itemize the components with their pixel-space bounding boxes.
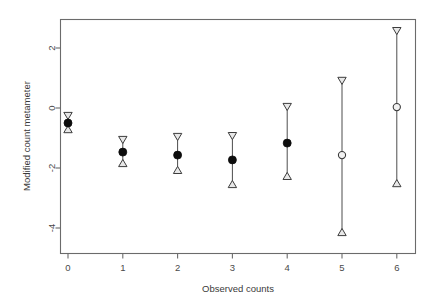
x-tick-label: 0 [65, 262, 70, 273]
data-point-group [228, 133, 236, 188]
lower-limit-up-triangle-icon [283, 172, 291, 179]
data-point-group [119, 136, 127, 166]
lower-limit-up-triangle-icon [119, 159, 127, 166]
data-point-group [283, 103, 291, 179]
estimate-filled-circle-marker [174, 151, 182, 159]
data-point-group [64, 112, 72, 132]
upper-limit-down-triangle-icon [64, 112, 72, 119]
data-points [64, 28, 401, 236]
upper-limit-down-triangle-icon [119, 136, 127, 143]
upper-limit-down-triangle-icon [173, 133, 181, 140]
upper-limit-down-triangle-icon [338, 77, 346, 84]
x-axis: 0123456 [65, 254, 399, 273]
x-axis-title: Observed counts [202, 283, 274, 294]
lower-limit-up-triangle-icon [228, 180, 236, 187]
y-tick-label: -4 [46, 224, 57, 232]
y-axis: 20-2-4 [46, 45, 61, 232]
scatter-plot: 20-2-4 0123456 Modified count metameter … [0, 0, 431, 308]
estimate-filled-circle-marker [119, 148, 127, 156]
x-tick-label: 2 [175, 262, 180, 273]
estimate-open-circle-marker [338, 152, 345, 159]
estimate-filled-circle-marker [283, 139, 291, 147]
y-axis-title: Modified count metameter [21, 81, 32, 191]
data-point-group [173, 133, 181, 173]
chart-page: 20-2-4 0123456 Modified count metameter … [0, 0, 431, 308]
lower-limit-up-triangle-icon [393, 180, 401, 187]
x-tick-label: 5 [339, 262, 344, 273]
data-point-group [393, 28, 401, 187]
x-tick-label: 3 [230, 262, 235, 273]
x-tick-label: 4 [285, 262, 290, 273]
estimate-open-circle-marker [393, 104, 400, 111]
y-tick-label: 2 [46, 45, 57, 50]
x-tick-label: 1 [120, 262, 125, 273]
upper-limit-down-triangle-icon [393, 28, 401, 35]
lower-limit-up-triangle-icon [173, 166, 181, 173]
upper-limit-down-triangle-icon [228, 133, 236, 140]
y-tick-label: 0 [46, 105, 57, 110]
x-tick-label: 6 [394, 262, 399, 273]
lower-limit-up-triangle-icon [338, 228, 346, 235]
estimate-filled-circle-marker [64, 119, 72, 127]
plot-frame [61, 20, 416, 254]
data-point-group [338, 77, 346, 235]
upper-limit-down-triangle-icon [283, 103, 291, 110]
y-tick-label: -2 [46, 164, 57, 172]
estimate-filled-circle-marker [228, 156, 236, 164]
